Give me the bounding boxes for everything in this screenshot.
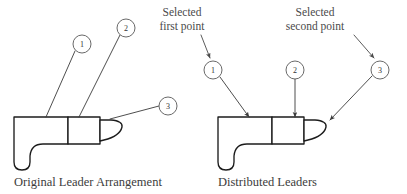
balloon-2[interactable]: 2	[286, 61, 304, 79]
part-nose-outline	[100, 120, 122, 141]
leader-line-3[interactable]	[110, 106, 159, 119]
left-diagram: 1 2 3 Original Leader Arrangement	[0, 0, 407, 194]
leader-line-1[interactable]	[46, 51, 75, 117]
left-leader-lines	[46, 35, 159, 119]
part-shank-outline	[68, 117, 100, 144]
balloon-3[interactable]: 3	[159, 97, 177, 115]
right-diagram-caption: Distributed Leaders	[218, 175, 317, 189]
balloon-1[interactable]: 1	[204, 61, 222, 79]
annotation-selected-second-point: Selected second point	[286, 6, 374, 58]
annotation-line-1: Selected	[163, 6, 202, 18]
annotation-arrow-icon	[201, 35, 210, 58]
left-balloons: 1 2 3	[73, 19, 177, 115]
annotation-line-2: second point	[286, 20, 345, 33]
part-body-outline	[14, 117, 68, 170]
balloon-3[interactable]: 3	[371, 61, 389, 79]
right-balloons: 1 2 3	[204, 61, 389, 79]
annotation-line-1: Selected	[296, 6, 335, 18]
left-part-profile	[14, 117, 122, 170]
figure-canvas: 1 2 3 Original Leader Arrangement	[0, 0, 407, 194]
balloon-1[interactable]: 1	[73, 35, 91, 53]
balloon-2[interactable]: 2	[117, 19, 135, 37]
part-body-outline	[218, 117, 272, 170]
balloon-label: 3	[166, 102, 170, 111]
left-diagram-caption: Original Leader Arrangement	[14, 175, 162, 189]
balloon-label: 1	[80, 40, 84, 49]
part-nose-outline	[304, 120, 326, 141]
leader-line-3[interactable]	[330, 76, 372, 120]
balloon-label: 3	[378, 66, 382, 75]
balloon-label: 2	[124, 24, 128, 33]
leader-line-1[interactable]	[220, 77, 249, 117]
annotation-line-2: first point	[159, 20, 205, 33]
balloon-label: 1	[211, 66, 215, 75]
annotation-selected-first-point: Selected first point	[159, 6, 210, 58]
right-leader-lines	[220, 76, 372, 120]
annotation-arrow-icon	[354, 35, 374, 58]
right-part-profile	[218, 117, 326, 170]
balloon-label: 2	[293, 66, 297, 75]
part-shank-outline	[272, 117, 304, 144]
